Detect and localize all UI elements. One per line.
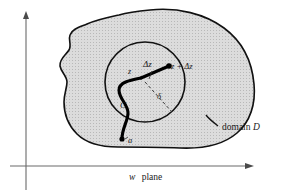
label-domain-word: domain <box>222 122 251 132</box>
label-delta-z: Δz <box>143 60 152 69</box>
label-domain-d: domain D <box>222 123 260 133</box>
label-point-z: z <box>128 68 131 76</box>
label-domain-symbol: D <box>253 122 260 132</box>
point-a-dot <box>119 136 124 141</box>
label-plane-word: plane <box>142 172 163 182</box>
label-delta-radius: δ <box>157 92 161 101</box>
horizontal-axis-arrowhead <box>245 163 254 169</box>
complex-plane-diagram <box>0 0 291 193</box>
label-z-plus-delta-z: z + Δz <box>171 62 193 71</box>
label-curve-c: C <box>120 101 126 110</box>
label-w-plane: w plane <box>129 173 162 183</box>
label-w-variable: w <box>129 172 135 182</box>
label-point-a: a <box>128 136 132 145</box>
vertical-axis-arrowhead <box>23 11 29 19</box>
figure-container: z Δz z + Δz δ C a domain D w plane <box>0 0 291 193</box>
